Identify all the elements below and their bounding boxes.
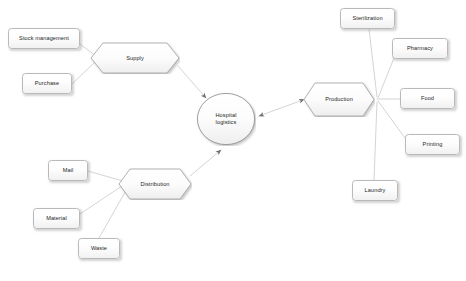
- node-waste[interactable]: Waste: [78, 238, 120, 259]
- node-supply[interactable]: Supply: [90, 42, 180, 74]
- node-label: Production: [325, 96, 353, 103]
- edge-production-hospital-logistics: [259, 101, 300, 116]
- node-material[interactable]: Material: [33, 208, 80, 229]
- node-label: Material: [46, 215, 67, 222]
- node-sterilization[interactable]: Sterilization: [340, 8, 395, 29]
- node-mail[interactable]: Mail: [48, 160, 88, 181]
- node-label: Pharmacy: [407, 45, 433, 52]
- node-label: Waste: [91, 245, 107, 252]
- node-label: Sterilization: [352, 15, 382, 22]
- node-printing[interactable]: Printing: [405, 134, 460, 155]
- node-hospital-logistics[interactable]: Hospital logistics: [196, 92, 256, 146]
- edge-pharmacy-production: [378, 58, 394, 98]
- node-production[interactable]: Production: [303, 82, 375, 117]
- hospital-logistics-diagram: Stock management Purchase Supply Hospita…: [0, 0, 466, 281]
- node-purchase[interactable]: Purchase: [22, 73, 72, 94]
- node-label: Supply: [126, 55, 144, 62]
- node-pharmacy[interactable]: Pharmacy: [392, 38, 448, 59]
- node-label: Mail: [63, 167, 74, 174]
- node-label: Printing: [423, 141, 443, 148]
- node-label: Stock management: [19, 35, 69, 42]
- node-label: Distribution: [140, 181, 169, 188]
- node-label: Purchase: [35, 80, 59, 87]
- node-distribution[interactable]: Distribution: [118, 168, 192, 200]
- node-food[interactable]: Food: [400, 88, 455, 109]
- node-label: Laundry: [365, 187, 386, 194]
- node-stock-management[interactable]: Stock management: [8, 28, 80, 49]
- edge-distribution-hospital-logistics: [190, 150, 221, 176]
- node-label: Hospital logistics: [215, 112, 236, 126]
- node-label: Food: [421, 95, 434, 102]
- node-laundry[interactable]: Laundry: [352, 180, 398, 201]
